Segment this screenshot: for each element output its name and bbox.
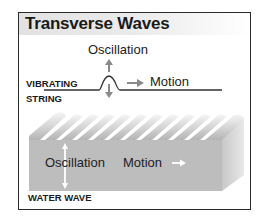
string-label: STRING: [26, 93, 62, 104]
arrow-up-icon: [105, 59, 113, 72]
water-wave-label: WATER WAVE: [28, 192, 92, 203]
arrow-right-icon: [127, 79, 144, 87]
vibrating-label: VIBRATING: [26, 78, 78, 89]
water-oscillation-label: Oscillation: [45, 155, 105, 170]
water-wave-block: [29, 112, 244, 191]
water-motion-label: Motion: [123, 155, 162, 170]
wave-illustration: [0, 0, 264, 220]
arrow-down-icon: [105, 84, 113, 98]
string-motion-label: Motion: [150, 74, 189, 89]
string-oscillation-label: Oscillation: [88, 42, 148, 57]
